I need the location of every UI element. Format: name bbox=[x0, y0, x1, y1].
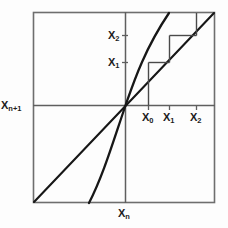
x-tick-label-x1-subscript: 1 bbox=[170, 116, 174, 125]
x-tick-label-x1: X1 bbox=[163, 111, 175, 123]
y-tick-label-x2-subscript: 2 bbox=[115, 34, 119, 43]
y-tick-label-x2: X2 bbox=[108, 29, 120, 41]
x-axis-label-subscript: n bbox=[125, 212, 130, 221]
y-tick-label-x1: X1 bbox=[108, 56, 120, 68]
x-tick-label-x0-subscript: 0 bbox=[149, 116, 153, 125]
y-tick-label-x1-subscript: 1 bbox=[115, 61, 119, 70]
map-curve bbox=[89, 13, 169, 203]
figure-page: Xn+1 Xn X2 X1 X0 X1 X2 bbox=[0, 0, 228, 228]
cobweb-staircase bbox=[149, 13, 197, 106]
x-tick-label-x2: X2 bbox=[190, 111, 202, 123]
y-axis-label: Xn+1 bbox=[1, 99, 21, 111]
x-tick-label-x0: X0 bbox=[142, 111, 154, 123]
x-axis-label: Xn bbox=[118, 207, 130, 219]
x-tick-label-x2-subscript: 2 bbox=[197, 116, 201, 125]
y-axis-label-subscript: n+1 bbox=[8, 104, 21, 113]
